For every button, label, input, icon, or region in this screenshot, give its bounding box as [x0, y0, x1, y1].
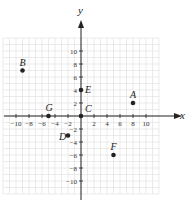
- svg-text:−4: −4: [51, 120, 59, 128]
- point-E: [79, 88, 84, 93]
- svg-text:−8: −8: [25, 120, 33, 128]
- point-label-G: G: [46, 102, 53, 113]
- svg-text:6: 6: [118, 120, 122, 128]
- svg-text:6: 6: [74, 74, 78, 82]
- point-D: [66, 133, 71, 138]
- axes: xy: [4, 4, 185, 200]
- point-B: [20, 68, 25, 73]
- svg-text:2: 2: [74, 100, 78, 108]
- svg-text:10: 10: [143, 120, 151, 128]
- point-label-A: A: [129, 89, 137, 100]
- coordinate-plane: xy −10−8−6−4−2246810108642−2−4−6−8−10 AB…: [0, 0, 186, 207]
- point-F: [111, 153, 116, 158]
- svg-text:4: 4: [105, 120, 109, 128]
- y-axis-label: y: [77, 4, 83, 16]
- point-G: [46, 114, 51, 119]
- svg-text:−10: −10: [66, 178, 77, 186]
- svg-text:4: 4: [74, 87, 78, 95]
- svg-text:−6: −6: [38, 120, 46, 128]
- svg-text:−10: −10: [11, 120, 22, 128]
- point-C: [79, 114, 84, 119]
- point-label-E: E: [84, 84, 91, 95]
- x-axis-label: x: [179, 109, 185, 121]
- svg-text:−6: −6: [70, 152, 78, 160]
- point-label-F: F: [110, 141, 118, 152]
- svg-text:−4: −4: [70, 139, 78, 147]
- svg-text:10: 10: [70, 48, 78, 56]
- y-arrow-icon: [78, 20, 84, 28]
- point-label-B: B: [20, 57, 26, 68]
- svg-text:8: 8: [74, 61, 78, 69]
- svg-text:−8: −8: [70, 165, 78, 173]
- point-label-C: C: [85, 103, 92, 114]
- svg-text:−2: −2: [70, 126, 78, 134]
- point-A: [131, 101, 136, 106]
- point-label-D: D: [58, 131, 67, 142]
- svg-text:8: 8: [131, 120, 135, 128]
- svg-text:2: 2: [92, 120, 96, 128]
